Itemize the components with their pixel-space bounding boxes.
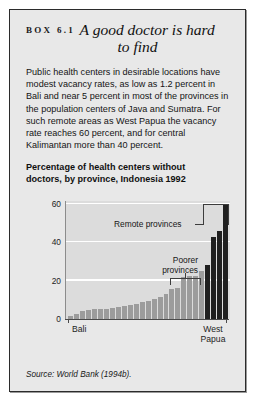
annotation-remote-provinces: Remote provinces [114, 219, 182, 229]
chart-bar [164, 294, 169, 319]
chart-bar [205, 265, 210, 318]
x-axis-label-west-papua-line1: West [196, 324, 230, 335]
chart-bar [134, 304, 139, 318]
chart-x-axis-line [65, 319, 229, 320]
box-header: BOX 6.1 A good doctor is hard to find [26, 21, 231, 55]
y-axis-tick-label: 20 [52, 276, 61, 286]
chart-heading-line2: doctors, by province, Indonesia 1992 [26, 174, 229, 186]
box-title-line1: A good doctor is hard [80, 21, 215, 38]
chart-bar [152, 299, 157, 319]
chart-bar [110, 308, 115, 318]
annotation-poorer-bracket [170, 278, 201, 285]
annotation-poorer-line2: provinces [142, 265, 198, 275]
chart-bar [104, 309, 109, 319]
chart-bar [122, 306, 127, 318]
chart-heading: Percentage of health centers without doc… [26, 162, 229, 185]
chart-bar [80, 311, 85, 319]
x-axis-label-west-papua-line2: Papua [196, 334, 230, 345]
chart-heading-line1: Percentage of health centers without [26, 162, 229, 174]
chart-bar [146, 301, 151, 319]
x-tick-right [226, 319, 227, 323]
chart-bar [86, 310, 91, 319]
chart-bar [128, 305, 133, 318]
chart-bar [92, 309, 97, 318]
chart-bar [169, 289, 174, 319]
annotation-poorer-line1: Poorer [142, 255, 198, 265]
box-number-label: BOX 6.1 [26, 25, 75, 35]
chart-bar [211, 237, 216, 319]
box-title-line2: to find [44, 38, 231, 55]
chart-bar [217, 231, 222, 319]
y-axis-tick-label: 40 [52, 237, 61, 247]
source-note: Source: World Bank (1994b). [26, 370, 132, 379]
x-tick-left [68, 319, 69, 323]
y-axis-tick-label: 0 [56, 314, 61, 324]
annotation-remote-bracket [203, 204, 229, 225]
box-container: BOX 6.1 A good doctor is hard to find Pu… [9, 9, 246, 392]
x-axis-label-bali: Bali [72, 324, 86, 335]
chart-bar [158, 297, 163, 319]
chart-bar [140, 302, 145, 318]
annotation-remote-leader-line [195, 224, 203, 225]
bar-chart: 0204060 Remote provinces Poorer province… [10, 193, 245, 343]
x-axis-label-west-papua: West Papua [196, 324, 230, 345]
annotation-poorer-provinces: Poorer provinces [142, 255, 198, 275]
y-axis-tick-label: 60 [52, 199, 61, 209]
chart-bar [175, 288, 180, 318]
chart-bar [98, 309, 103, 319]
box-body-text: Public health centers in desirable locat… [26, 66, 229, 151]
chart-bar [116, 307, 121, 318]
